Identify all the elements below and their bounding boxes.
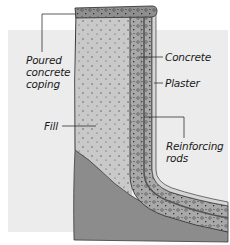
cross-section-illustration bbox=[0, 0, 230, 245]
pool-wall-diagram: Poured concrete coping Fill Concrete Pla… bbox=[0, 0, 230, 245]
label-coping-line2: concrete bbox=[26, 66, 70, 78]
label-coping: Poured concrete coping bbox=[26, 54, 70, 90]
label-plaster: Plaster bbox=[165, 77, 200, 89]
label-fill: Fill bbox=[44, 120, 58, 132]
label-coping-line3: coping bbox=[26, 78, 70, 90]
label-rods: Reinforcing rods bbox=[166, 140, 224, 164]
label-rods-line1: Reinforcing bbox=[166, 140, 224, 152]
label-rods-line2: rods bbox=[166, 152, 224, 164]
label-concrete: Concrete bbox=[165, 51, 211, 63]
label-coping-line1: Poured bbox=[26, 54, 70, 66]
